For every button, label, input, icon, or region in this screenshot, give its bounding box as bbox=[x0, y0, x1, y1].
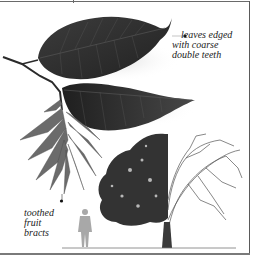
document-page: leaves edged with coarse double teeth to… bbox=[0, 0, 254, 260]
human-scale-figure bbox=[78, 209, 92, 247]
tree-summer-foliage bbox=[99, 134, 168, 226]
annotation-leaves: leaves edged with coarse double teeth bbox=[181, 30, 232, 60]
lower-leaf bbox=[55, 83, 195, 130]
annotation-bracts: toothed fruit bracts bbox=[24, 208, 54, 238]
tree-winter-branches bbox=[168, 134, 242, 230]
annotation-leaves-line-3: double teeth bbox=[172, 50, 232, 60]
annotation-bracts-line-3: bracts bbox=[24, 228, 54, 238]
upper-leaf bbox=[38, 17, 180, 82]
bract-leader-dot bbox=[60, 199, 63, 202]
tree-trunk bbox=[162, 222, 172, 248]
